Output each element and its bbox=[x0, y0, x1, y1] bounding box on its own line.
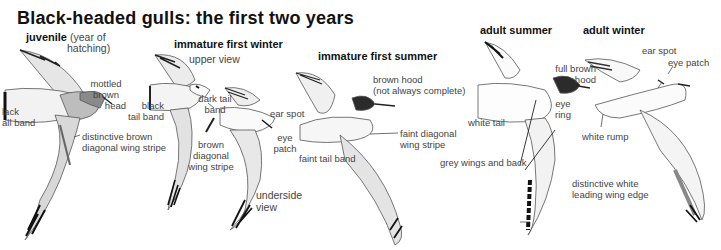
label-mottled-1: mottled bbox=[86, 78, 126, 89]
label-first-winter-eye-patch-1: eye bbox=[270, 132, 300, 143]
label-eye-ring-1: eye bbox=[552, 98, 574, 109]
label-full-brown-hood-2: hood bbox=[542, 74, 596, 85]
label-faint-stripe-1: faint diagonal bbox=[400, 128, 457, 139]
heading-adult-summer: adult summer bbox=[480, 24, 552, 36]
label-first-winter-tail-1: black bbox=[124, 100, 164, 111]
label-first-winter-eye-patch-2: patch bbox=[270, 143, 300, 154]
gull-illustrations bbox=[0, 0, 721, 250]
label-first-winter-tail: black tail band bbox=[124, 100, 164, 122]
label-first-winter-eye-patch: eye patch bbox=[270, 132, 300, 154]
label-first-winter-ear-spot: ear spot bbox=[270, 108, 304, 119]
label-juvenile-stripe-1: distinctive brown bbox=[82, 131, 166, 142]
label-full-brown-hood: full brown hood bbox=[542, 63, 596, 85]
label-dark-tail-band-1: dark tail bbox=[192, 93, 238, 104]
label-dark-tail-band: dark tail band bbox=[192, 93, 238, 115]
label-faint-stripe: faint diagonal wing stripe bbox=[400, 128, 457, 150]
label-first-winter-stripe: brown diagonal wing stripe bbox=[187, 139, 235, 172]
label-white-tail: white tail bbox=[468, 117, 505, 128]
label-mottled-3: head bbox=[86, 100, 126, 111]
label-eye-ring-2: ring bbox=[552, 109, 574, 120]
label-white-leading-edge-1: distinctive white bbox=[572, 178, 649, 189]
label-faint-stripe-2: wing stripe bbox=[400, 139, 457, 150]
label-brown-hood-2: (not always complete) bbox=[373, 85, 465, 96]
label-underside-view-2: view bbox=[256, 201, 302, 213]
label-underside-view: underside view bbox=[256, 189, 302, 213]
label-juvenile-tail: lack ail band bbox=[2, 106, 35, 128]
heading-first-winter: immature first winter bbox=[174, 38, 283, 50]
label-juvenile-tail-2: ail band bbox=[2, 117, 35, 128]
label-dark-tail-band-2: band bbox=[192, 104, 238, 115]
label-white-leading-edge: distinctive white leading wing edge bbox=[572, 178, 649, 200]
label-first-winter-stripe-1: brown bbox=[187, 139, 235, 150]
label-juvenile-stripe: distinctive brown diagonal wing stripe bbox=[82, 131, 166, 153]
label-brown-hood: brown hood (not always complete) bbox=[373, 74, 465, 96]
heading-adult-winter: adult winter bbox=[583, 24, 645, 36]
label-first-winter-stripe-3: wing stripe bbox=[187, 161, 235, 172]
label-white-leading-edge-2: leading wing edge bbox=[572, 189, 649, 200]
label-upper-view: upper view bbox=[189, 54, 240, 65]
label-full-brown-hood-1: full brown bbox=[542, 63, 596, 74]
label-first-winter-tail-2: tail band bbox=[124, 111, 164, 122]
label-juvenile-stripe-2: diagonal wing stripe bbox=[82, 142, 166, 153]
label-white-rump: white rump bbox=[582, 131, 628, 142]
label-brown-hood-1: brown hood bbox=[373, 74, 465, 85]
label-mottled: mottled brown head bbox=[86, 78, 126, 111]
label-mottled-2: brown bbox=[86, 89, 126, 100]
label-juvenile-tail-1: lack bbox=[2, 106, 35, 117]
label-faint-tail-band: faint tail band bbox=[299, 153, 356, 164]
juvenile-sub2: hatching) bbox=[67, 43, 110, 54]
page-title: Black-headed gulls: the first two years bbox=[17, 8, 354, 29]
label-eye-ring: eye ring bbox=[552, 98, 574, 120]
label-adult-winter-eye-patch: eye patch bbox=[668, 57, 709, 68]
label-underside-view-1: underside bbox=[256, 189, 302, 201]
label-adult-winter-ear-spot: ear spot bbox=[642, 45, 676, 56]
heading-first-summer: immature first summer bbox=[318, 50, 437, 62]
label-grey-wings: grey wings and back bbox=[440, 157, 527, 168]
label-first-winter-stripe-2: diagonal bbox=[187, 150, 235, 161]
heading-juvenile-text: juvenile bbox=[26, 31, 67, 43]
